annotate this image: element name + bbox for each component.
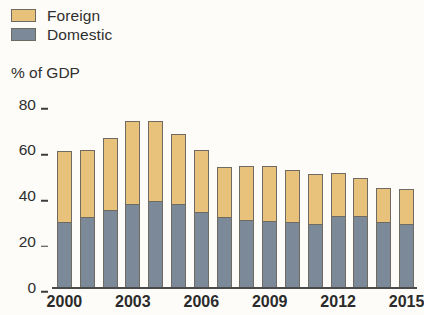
bar-segment-foreign — [353, 178, 368, 216]
y-axis-tick-mark — [41, 108, 48, 110]
y-axis-tick: 40 — [19, 188, 52, 204]
bar-segment-domestic — [399, 224, 414, 287]
bar-segment-domestic — [171, 204, 186, 287]
y-axis-title: % of GDP — [11, 64, 80, 82]
bar-group — [399, 189, 414, 287]
bar-group — [285, 170, 300, 287]
bar-segment-foreign — [331, 173, 346, 216]
bar-group — [217, 167, 232, 287]
y-axis-tick-mark — [41, 245, 48, 247]
bar-series-container — [52, 104, 417, 287]
bar-segment-foreign — [103, 138, 118, 210]
bar-segment-domestic — [125, 204, 140, 287]
x-axis-tick-label: 2015 — [389, 293, 424, 311]
legend-label-domestic: Domestic — [47, 26, 112, 44]
bar-segment-foreign — [399, 189, 414, 224]
bar-segment-foreign — [239, 166, 254, 220]
y-axis-tick-mark — [41, 154, 48, 156]
bar-segment-foreign — [285, 170, 300, 221]
x-axis-tick-label: 2009 — [252, 293, 288, 311]
bar-segment-domestic — [285, 222, 300, 287]
bar-segment-foreign — [80, 150, 95, 217]
bar-segment-domestic — [148, 201, 163, 287]
bar-group — [376, 188, 391, 288]
y-axis-tick-label: 80 — [19, 96, 36, 112]
bar-segment-foreign — [308, 174, 323, 224]
bar-segment-domestic — [262, 221, 277, 287]
bar-segment-foreign — [217, 167, 232, 217]
x-axis-tick-label: 2012 — [320, 293, 356, 311]
bar-segment-domestic — [376, 222, 391, 287]
legend-swatch-foreign — [11, 9, 36, 22]
bar-segment-domestic — [80, 217, 95, 287]
y-axis-tick-label: 60 — [19, 142, 36, 158]
x-axis-tick-label: 2000 — [47, 293, 83, 311]
bar-group — [308, 174, 323, 287]
bar-segment-foreign — [376, 188, 391, 222]
y-axis-tick-label: 40 — [19, 188, 36, 204]
bar-segment-foreign — [125, 121, 140, 203]
x-axis-tick-label: 2006 — [183, 293, 219, 311]
bar-segment-domestic — [308, 224, 323, 287]
bar-group — [103, 138, 118, 287]
legend-item-foreign: Foreign — [11, 6, 112, 25]
y-axis-tick-label: 0 — [27, 279, 36, 295]
y-axis-tick-label: 20 — [19, 234, 36, 250]
y-axis-tick-mark — [41, 200, 48, 202]
bar-group — [57, 151, 72, 287]
bar-group — [171, 134, 186, 287]
bar-segment-domestic — [217, 217, 232, 287]
bar-segment-domestic — [194, 212, 209, 287]
x-axis-baseline — [52, 287, 417, 289]
y-axis-tick: 80 — [19, 96, 52, 112]
bar-group — [148, 121, 163, 287]
bar-segment-foreign — [262, 166, 277, 221]
y-axis-tick: 20 — [19, 234, 52, 250]
y-axis-tick: 60 — [19, 142, 52, 158]
bar-group — [262, 166, 277, 287]
bar-segment-foreign — [194, 150, 209, 212]
legend-item-domestic: Domestic — [11, 25, 112, 44]
bar-segment-foreign — [171, 134, 186, 204]
bar-segment-domestic — [239, 220, 254, 287]
legend-label-foreign: Foreign — [47, 7, 100, 25]
bar-group — [353, 178, 368, 287]
x-axis: 200020032006200920122015 — [52, 293, 417, 315]
bar-group — [194, 150, 209, 287]
chart-legend: Foreign Domestic — [11, 6, 112, 44]
bar-segment-domestic — [57, 222, 72, 287]
bar-group — [80, 150, 95, 287]
x-axis-tick-label: 2003 — [115, 293, 151, 311]
bar-group — [331, 173, 346, 287]
bar-segment-domestic — [331, 216, 346, 287]
bar-group — [239, 166, 254, 287]
plot-area: 020406080 200020032006200920122015 — [52, 104, 420, 289]
bar-segment-domestic — [103, 210, 118, 287]
legend-swatch-domestic — [11, 28, 36, 41]
bar-segment-foreign — [57, 151, 72, 222]
bar-segment-foreign — [148, 121, 163, 201]
bar-group — [125, 121, 140, 287]
bar-segment-domestic — [353, 216, 368, 287]
